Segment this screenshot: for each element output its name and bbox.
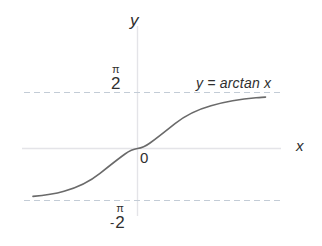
fraction-denominator-two: 2 [115, 214, 124, 232]
y-axis-label: y [130, 12, 139, 29]
arctan-curve [33, 97, 266, 196]
fraction-stack-negative: π 2 [115, 203, 124, 232]
y-tick-label-negative-pi-over-two: - π 2 [110, 203, 125, 232]
y-tick-label-pi-over-two: π 2 [110, 64, 120, 93]
plot-area [0, 0, 322, 246]
tick-sign-negative: - [110, 215, 114, 230]
origin-label: 0 [140, 150, 148, 165]
arctan-graph-figure: y x 0 y = arctan x π 2 - π 2 [0, 0, 322, 246]
x-axis-label: x [296, 138, 304, 153]
curve-equation-label: y = arctan x [196, 76, 271, 90]
fraction-denominator-two: 2 [111, 75, 120, 93]
fraction-stack-positive: π 2 [111, 64, 120, 93]
